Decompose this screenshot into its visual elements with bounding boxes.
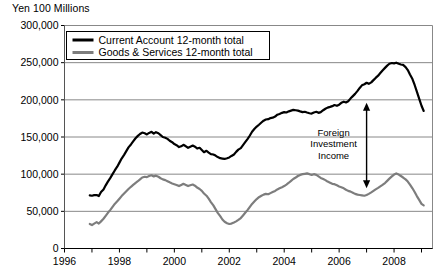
x-tick-label: 2006 xyxy=(327,255,351,267)
line-chart: 300,000250,000200,000150,000100,00050,00… xyxy=(0,0,447,279)
y-tick-label: 200,000 xyxy=(21,94,59,106)
y-tick-label: 250,000 xyxy=(21,56,59,68)
annotation-arrowhead-top xyxy=(363,103,370,111)
y-axis-ticks-group: 300,000250,000200,000150,000100,00050,00… xyxy=(21,19,65,254)
y-tick-label: 0 xyxy=(53,242,59,254)
series-line-1 xyxy=(90,173,424,225)
series-line-0 xyxy=(90,63,424,196)
series-group xyxy=(90,63,424,225)
x-tick-label: 2002 xyxy=(218,255,242,267)
annotation-arrowhead-bottom xyxy=(363,180,370,188)
annotation-label-line: Foreign xyxy=(317,127,349,138)
x-axis-ticks-group: 1996199820002002200420062008 xyxy=(53,249,422,267)
chart-container: Yen 100 Millions 300,000250,000200,00015… xyxy=(0,0,447,279)
annotation-foreign-investment-income: ForeignInvestmentIncome xyxy=(310,103,370,188)
x-tick-label: 1998 xyxy=(108,255,132,267)
y-tick-label: 300,000 xyxy=(21,19,59,31)
x-tick-label: 2008 xyxy=(382,255,406,267)
annotation-label-line: Income xyxy=(318,150,349,161)
y-tick-label: 50,000 xyxy=(26,205,58,217)
x-tick-label: 1996 xyxy=(53,255,77,267)
annotation-label-line: Investment xyxy=(310,138,357,149)
legend-label-1: Goods & Services 12-month total xyxy=(99,46,253,58)
legend-label-0: Current Account 12-month total xyxy=(99,34,244,46)
y-tick-label: 150,000 xyxy=(21,131,59,143)
y-tick-label: 100,000 xyxy=(21,168,59,180)
legend: Current Account 12-month totalGoods & Se… xyxy=(67,32,270,60)
x-tick-label: 2004 xyxy=(273,255,297,267)
x-tick-label: 2000 xyxy=(163,255,187,267)
